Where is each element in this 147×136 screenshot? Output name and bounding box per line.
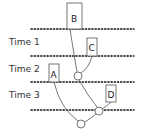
- lineage-d: [102, 102, 111, 109]
- time-label-2: Time 2: [8, 64, 40, 74]
- merge-point-bc: [74, 72, 82, 80]
- lineage-b: [70, 29, 77, 72]
- time-label-3: Time 3: [8, 90, 40, 100]
- node-d: D: [106, 85, 116, 102]
- lineages: [54, 29, 111, 122]
- lineage-c: [81, 56, 92, 73]
- lineage-a: [54, 82, 78, 121]
- merge-point-abcd: [77, 120, 85, 128]
- node-c-label: C: [89, 43, 95, 53]
- node-c: C: [87, 38, 97, 56]
- node-a: A: [49, 64, 59, 82]
- time-label-1: Time 1: [8, 37, 40, 47]
- time-lines: [31, 29, 134, 110]
- lineage-bcd: [85, 114, 96, 122]
- coalescent-timeline-diagram: Time 1 Time 2 Time 3 B C A D: [0, 0, 147, 136]
- node-d-label: D: [108, 90, 115, 100]
- node-b-label: B: [71, 14, 77, 24]
- node-b: B: [67, 3, 82, 29]
- node-a-label: A: [51, 70, 58, 80]
- lineage-bc: [79, 80, 97, 107]
- merge-point-bcd: [95, 107, 103, 115]
